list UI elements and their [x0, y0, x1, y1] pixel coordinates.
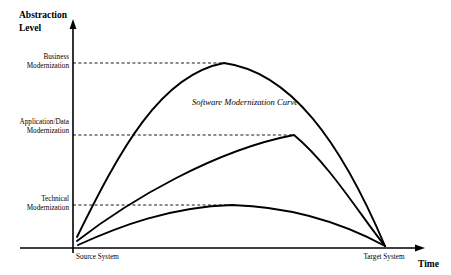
y-axis-title-line1: Abstraction — [19, 10, 68, 20]
curve-caption-label: Software Modernization Curve — [192, 97, 298, 107]
y-label-technical-line1: Technical — [41, 195, 69, 203]
x-axis-point-labels: Source System Target System — [76, 253, 405, 261]
y-label-business-line1: Business — [43, 53, 69, 61]
curve-technical-modernization — [78, 205, 385, 246]
y-label-technical-line2: Modernization — [27, 204, 70, 212]
axis-titles: Abstraction Level Time — [19, 10, 439, 269]
modernization-curves-group — [77, 63, 385, 246]
software-modernization-diagram: Abstraction Level Time Business Moderniz… — [0, 0, 451, 275]
guide-lines-group — [73, 63, 294, 205]
x-axis-title: Time — [418, 259, 439, 269]
x-label-source-system: Source System — [76, 253, 119, 261]
y-label-application-data-line1: Application/Data — [20, 118, 70, 126]
diagram-canvas: Abstraction Level Time Business Moderniz… — [0, 0, 451, 275]
y-label-business-line2: Modernization — [27, 62, 70, 70]
right-arrow-icon — [415, 245, 425, 252]
y-axis-tick-labels: Business Modernization Application/Data … — [20, 53, 70, 212]
x-label-target-system: Target System — [363, 253, 404, 261]
y-label-application-data-line2: Modernization — [27, 127, 70, 135]
up-arrow-icon — [70, 19, 77, 29]
y-axis-title-line2: Level — [19, 23, 42, 33]
curve-business-modernization — [77, 63, 385, 246]
